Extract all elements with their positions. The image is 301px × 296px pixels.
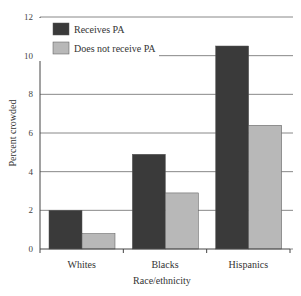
bar-hispanics-0 — [216, 46, 249, 249]
legend: Receives PADoes not receive PA — [39, 18, 159, 61]
y-tick-label: 2 — [29, 205, 34, 215]
y-tick-label: 8 — [29, 89, 34, 99]
x-tick-labels: WhitesBlacksHispanics — [68, 259, 269, 270]
bar-blacks-1 — [165, 193, 198, 249]
y-tick-labels: 024681012 — [24, 12, 34, 254]
x-tick-label: Whites — [68, 259, 96, 270]
y-tick-label: 0 — [29, 244, 34, 254]
bar-chart: 024681012 WhitesBlacksHispanics Percent … — [0, 0, 301, 296]
x-axis-label: Race/ethnicity — [133, 275, 191, 286]
x-tick-label: Blacks — [151, 259, 178, 270]
bar-whites-1 — [82, 234, 115, 249]
y-tick-label: 10 — [24, 51, 34, 61]
legend-label: Receives PA — [74, 24, 125, 35]
bars — [49, 46, 282, 249]
y-tick-label: 6 — [29, 128, 34, 138]
legend-swatch — [53, 23, 69, 35]
legend-swatch — [53, 42, 69, 54]
legend-label: Does not receive PA — [74, 43, 156, 54]
bar-whites-0 — [49, 210, 82, 249]
y-axis-label: Percent crowded — [7, 100, 18, 167]
y-tick-label: 4 — [29, 167, 34, 177]
bar-hispanics-1 — [249, 125, 282, 249]
x-tick-label: Hispanics — [229, 259, 269, 270]
bar-blacks-0 — [132, 154, 165, 249]
y-tick-label: 12 — [24, 12, 33, 22]
